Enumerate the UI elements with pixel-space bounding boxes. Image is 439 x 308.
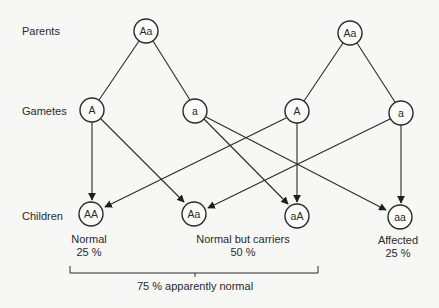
gamete-2-allele: a: [192, 105, 198, 117]
gamete-3-allele: A: [293, 105, 300, 117]
child-node-4: aa: [388, 205, 412, 229]
child-node-2: Aa: [182, 202, 206, 226]
child-2-genotype: Aa: [188, 208, 201, 220]
gamete-node-2: a: [183, 99, 207, 123]
outcome-affected-percent: 25 %: [385, 247, 410, 259]
row-label-gametes: Gametes: [22, 105, 67, 117]
outcome-affected-label: Affected: [378, 234, 418, 246]
parent-gamete-edges: [99, 41, 395, 102]
row-label-parents: Parents: [22, 25, 60, 37]
gamete-child-edges: [92, 117, 401, 210]
parent-node-2: Aa: [338, 21, 362, 45]
child-1-genotype: AA: [84, 208, 98, 220]
edge-g3-c1: [105, 118, 286, 207]
edge-g1-c2: [101, 119, 184, 202]
gamete-1-allele: A: [88, 104, 95, 116]
outcome-normal-label: Normal: [71, 233, 106, 245]
edge-g2-c3: [204, 119, 288, 204]
inheritance-diagram: Parents Gametes Children Aa Aa: [0, 0, 439, 308]
apparently-normal-bracket: [70, 266, 318, 277]
gamete-node-1: A: [80, 98, 104, 122]
parent-1-genotype: Aa: [140, 25, 153, 37]
gamete-node-4: a: [389, 101, 413, 125]
child-4-genotype: aa: [394, 211, 406, 223]
child-node-1: AA: [79, 202, 103, 226]
bracket-label: 75 % apparently normal: [137, 280, 253, 292]
outcome-carriers-percent: 50 %: [230, 246, 255, 258]
outcome-normal-percent: 25 %: [76, 246, 101, 258]
parent-2-genotype: Aa: [344, 27, 357, 39]
row-label-children: Children: [22, 210, 63, 222]
child-3-genotype: aA: [291, 210, 304, 222]
child-node-3: aA: [285, 204, 309, 228]
parent-node-1: Aa: [134, 19, 158, 43]
gamete-node-3: A: [285, 99, 309, 123]
outcome-carriers-label: Normal but carriers: [196, 233, 290, 245]
gamete-4-allele: a: [398, 107, 404, 119]
